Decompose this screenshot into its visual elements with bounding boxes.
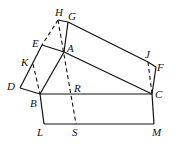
solid-segment-DB	[20, 88, 40, 94]
solid-segment-MC	[152, 94, 154, 124]
dashed-segment-HS	[58, 20, 76, 124]
dashed-lines	[33, 20, 152, 124]
label-G: G	[68, 10, 76, 22]
label-D: D	[6, 80, 15, 92]
solid-segment-AB	[40, 52, 64, 94]
dashed-segment-JC	[148, 62, 152, 94]
label-K: K	[20, 56, 29, 68]
solid-segment-JF	[148, 62, 156, 67]
label-J: J	[145, 48, 151, 60]
label-F: F	[156, 61, 164, 73]
label-H: H	[54, 6, 64, 18]
solid-lines	[20, 20, 156, 124]
solid-segment-HG	[58, 20, 68, 22]
dashed-segment-HE	[42, 20, 58, 45]
solid-segment-BL	[40, 94, 44, 124]
label-B: B	[30, 97, 37, 109]
label-E: E	[31, 37, 39, 49]
label-C: C	[155, 88, 163, 100]
solid-segment-GJ	[68, 22, 148, 62]
label-L: L	[36, 126, 43, 138]
diagram-svg: H G E A K D B R C J F L S M	[0, 0, 176, 146]
geometry-diagram: H G E A K D B R C J F L S M	[0, 0, 176, 146]
solid-segment-EA	[42, 45, 64, 52]
label-M: M	[151, 126, 162, 138]
dashed-segment-KB	[33, 64, 40, 94]
label-R: R	[73, 82, 81, 94]
label-S: S	[72, 126, 78, 138]
label-A: A	[66, 42, 74, 54]
